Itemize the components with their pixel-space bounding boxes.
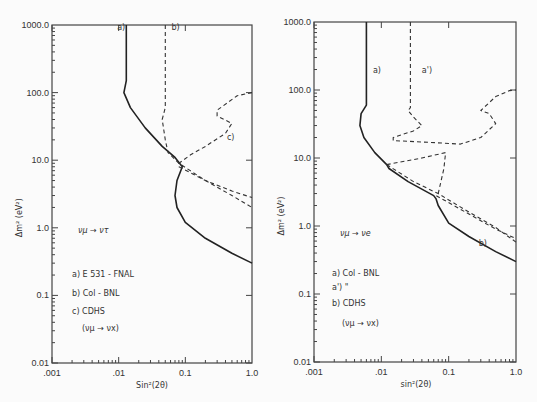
y-tick-label: 10.0 (293, 153, 311, 163)
legend-entry: c) CDHS (72, 307, 105, 316)
y-tick-label: 0.1 (36, 290, 49, 300)
legend-entry: a) Col - BNL (332, 269, 380, 278)
y-tick-label: 1000.0 (283, 17, 311, 27)
y-tick-label: 0.1 (298, 289, 311, 299)
legend-entry: a) E 531 - FNAL (72, 270, 134, 279)
curve-annotation: a) (117, 23, 125, 32)
curve-annotation: b) (171, 23, 179, 32)
y-tick-label: 10.0 (31, 155, 49, 165)
legend-entry: (νμ → νx) (342, 319, 379, 328)
y-tick-label: 100.0 (288, 85, 311, 95)
legend-entry: (νμ → νx) (82, 324, 119, 333)
right-panel: 0.010.11.010.0100.01000.0.001.010.11.0si… (277, 17, 522, 389)
x-tick-label: .001 (43, 368, 61, 378)
y-tick-label: 100.0 (26, 88, 49, 98)
y-tick-label: 1.0 (36, 223, 49, 233)
legend-entry: b) CDHS (332, 299, 366, 308)
legend-entry: a') " (332, 283, 348, 292)
y-tick-label: 0.01 (293, 357, 311, 367)
plot-frame (314, 22, 516, 362)
x-tick-label: 0.1 (179, 368, 192, 378)
y-tick-label: 1000.0 (21, 20, 49, 30)
x-axis-label: sin²(2θ) (401, 380, 432, 389)
x-tick-label: 1.0 (510, 367, 523, 377)
left-panel: 0.010.11.010.0100.01000.0.001.010.11.0Si… (15, 20, 258, 390)
x-axis-label: Sin²(2θ) (136, 381, 168, 390)
curve-annotation: c) (227, 133, 235, 142)
series-curve (162, 25, 252, 208)
series-curve (124, 25, 252, 263)
curve-annotation: a') (422, 66, 432, 75)
chart-figure: 0.010.11.010.0100.01000.0.001.010.11.0Si… (0, 0, 537, 402)
curve-annotation: b) (479, 239, 487, 248)
series-curve (393, 22, 516, 144)
x-tick-label: .01 (375, 367, 388, 377)
y-tick-label: 0.01 (31, 358, 49, 368)
x-tick-label: .001 (305, 367, 323, 377)
process-label: νμ → νe (340, 229, 371, 238)
x-tick-label: 1.0 (246, 368, 259, 378)
curve-annotation: a) (373, 66, 381, 75)
x-tick-label: 0.1 (442, 367, 455, 377)
series-curve (179, 93, 252, 198)
y-axis-label: Δm² (eV²) (15, 198, 24, 237)
y-tick-label: 1.0 (298, 221, 311, 231)
process-label: νμ → ντ (78, 226, 109, 235)
y-axis-label: Δm² (eV²) (277, 197, 286, 236)
x-tick-label: .01 (112, 368, 125, 378)
legend-entry: b) Col - BNL (72, 289, 120, 298)
series-curve (387, 165, 516, 243)
